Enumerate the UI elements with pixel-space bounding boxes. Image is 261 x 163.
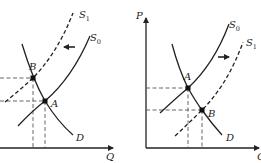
left-s1-label: S1 <box>79 9 90 23</box>
left-demand-label: D <box>75 132 84 143</box>
right-point-a-label: A <box>183 71 191 82</box>
left-point-a-label: A <box>50 98 58 109</box>
left-q-axis-label: Q <box>106 151 114 162</box>
right-point-a <box>186 86 191 91</box>
left-s0-label: S0 <box>90 32 101 46</box>
left-point-b <box>31 76 36 81</box>
right-point-b-label: B <box>207 108 215 119</box>
left-point-b-label: B <box>28 61 36 72</box>
right-panel: P Q D S0 S1 A B <box>135 10 261 162</box>
right-supply-s1-curve <box>175 42 243 136</box>
right-q-axis-label: Q <box>257 151 261 162</box>
right-demand-curve <box>172 44 222 135</box>
supply-shift-diagrams: Q D S0 S1 B A P Q <box>0 0 261 163</box>
left-demand-curve <box>22 44 73 135</box>
right-s0-label: S0 <box>229 19 240 33</box>
left-point-a <box>43 99 48 104</box>
left-supply-s0-curve <box>18 36 90 126</box>
right-p-axis-label: P <box>135 10 143 21</box>
right-demand-label: D <box>225 132 234 143</box>
left-panel: Q D S0 S1 B A <box>0 9 114 162</box>
right-s1-label: S1 <box>246 37 257 51</box>
right-point-b <box>200 108 205 113</box>
